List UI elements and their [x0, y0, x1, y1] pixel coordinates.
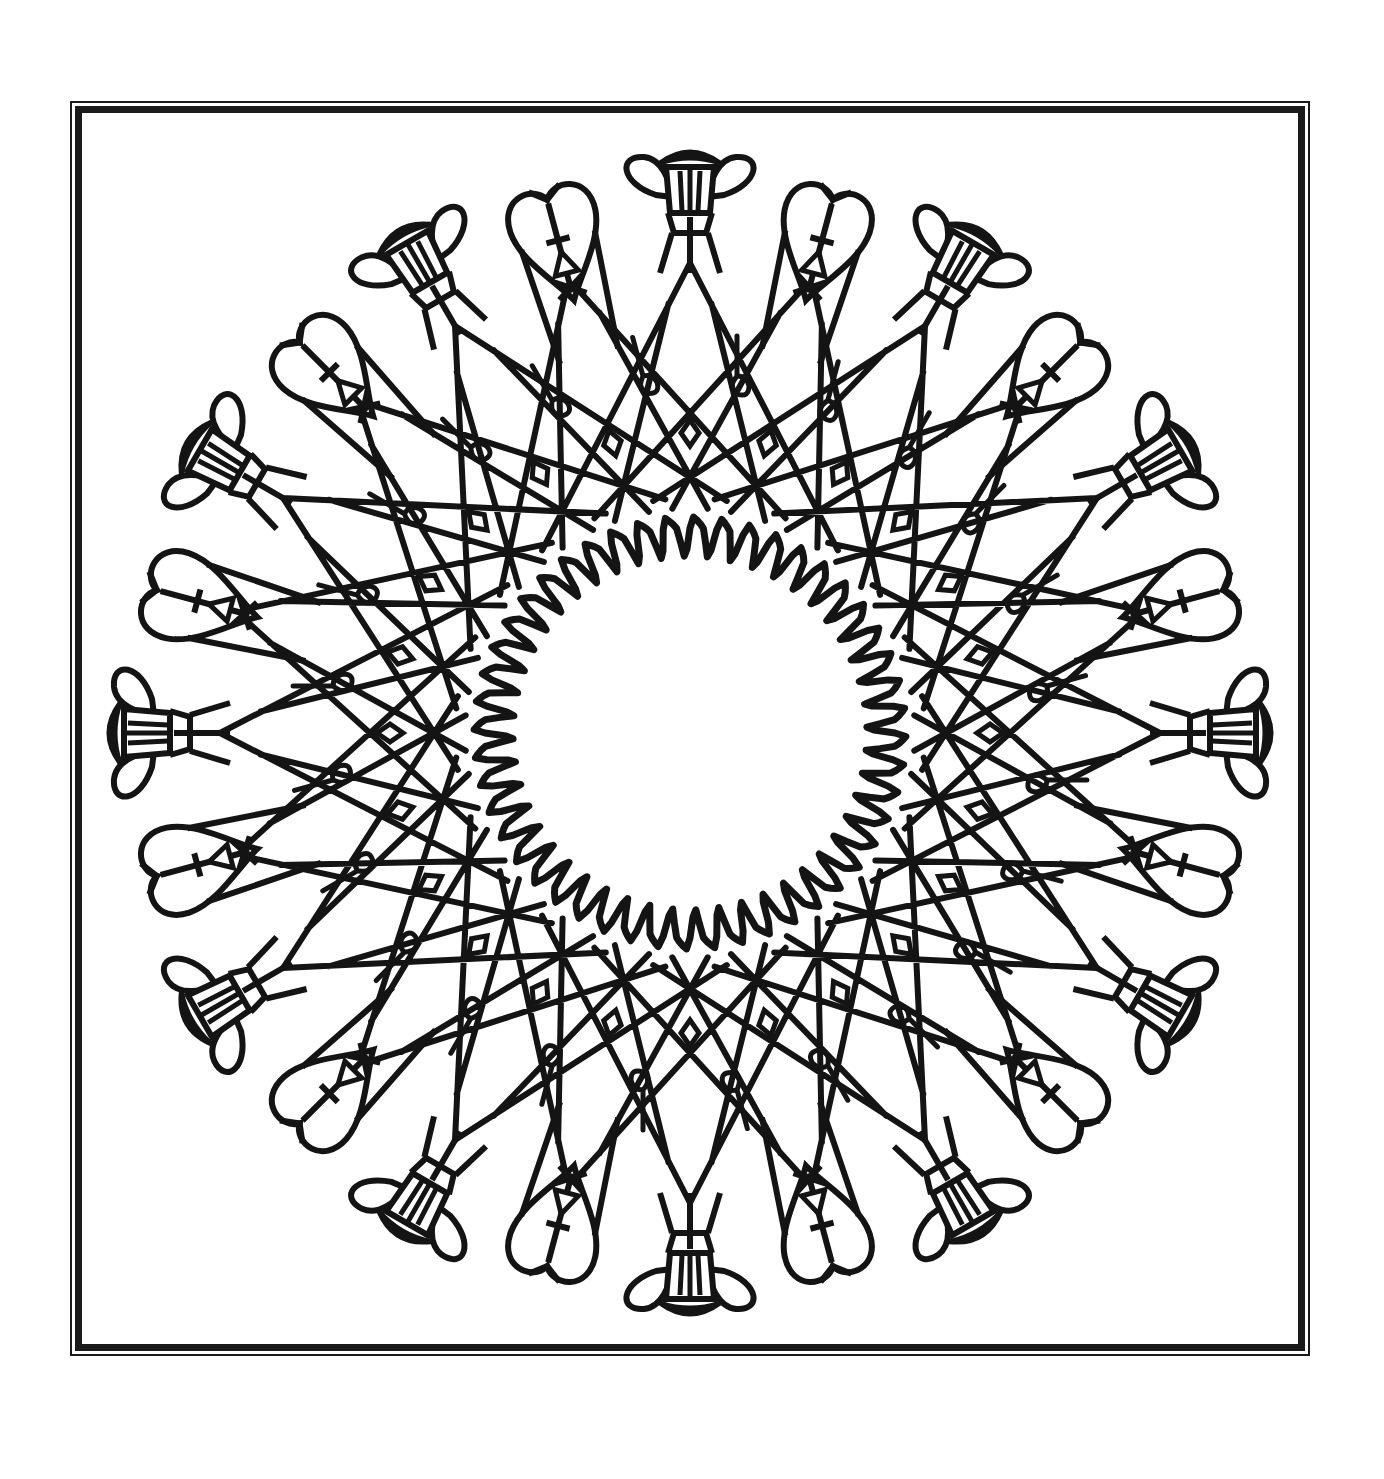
- wavy-inner-ring: [474, 517, 906, 949]
- heart-motif: [935, 303, 1120, 488]
- heart-motif: [260, 303, 445, 488]
- flower-icon: [155, 908, 323, 1079]
- flower-icon: [865, 1100, 1036, 1268]
- flower-icon: [1150, 669, 1271, 796]
- flower-motif: [865, 198, 1036, 366]
- flower-motif: [1057, 908, 1225, 1079]
- flower-motif: [344, 1100, 515, 1268]
- flower-motif: [865, 1100, 1036, 1268]
- flower-icon: [626, 1193, 753, 1314]
- flower-icon: [109, 669, 230, 796]
- mandala-artwork: [0, 0, 1384, 1479]
- flower-icon: [865, 198, 1036, 366]
- heart-motif: [260, 978, 445, 1163]
- heart-motif: [935, 978, 1120, 1163]
- wavy-ring-outline: [474, 517, 906, 949]
- flower-motif: [344, 198, 515, 366]
- flower-motif: [626, 1193, 753, 1314]
- flower-icon: [155, 387, 323, 558]
- flower-icon: [1057, 387, 1225, 558]
- flower-motif: [109, 669, 230, 796]
- flower-icon: [1057, 908, 1225, 1079]
- heart-leaf-icon: [260, 303, 445, 488]
- flower-motif: [1150, 669, 1271, 796]
- flower-motif: [155, 908, 323, 1079]
- heart-leaf-icon: [935, 303, 1120, 488]
- heart-leaf-icon: [935, 978, 1120, 1163]
- flower-icon: [344, 1100, 515, 1268]
- heart-leaf-icon: [260, 978, 445, 1163]
- flower-icon: [626, 152, 753, 273]
- flower-motif: [1057, 387, 1225, 558]
- flower-icon: [344, 198, 515, 366]
- flower-motif: [626, 152, 753, 273]
- flower-motif: [155, 387, 323, 558]
